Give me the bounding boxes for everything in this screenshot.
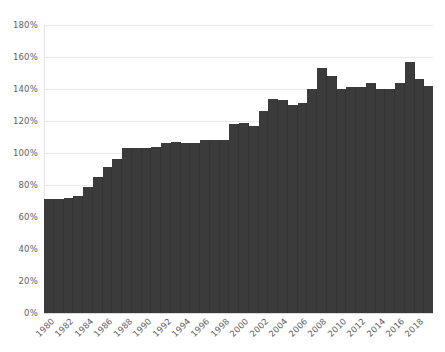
bar xyxy=(83,187,93,313)
bar xyxy=(356,87,366,313)
x-tick-label: 1996 xyxy=(189,316,212,339)
y-tick-label: 140% xyxy=(0,84,38,94)
bar xyxy=(103,167,113,313)
x-tick-label: 1998 xyxy=(208,316,231,339)
x-tick-label: 2004 xyxy=(267,316,290,339)
x-tick-label: 1994 xyxy=(170,316,193,339)
bar xyxy=(142,148,152,313)
bar xyxy=(278,100,288,313)
bar xyxy=(171,142,181,313)
x-tick-label: 1990 xyxy=(131,316,154,339)
bar xyxy=(376,89,386,313)
x-tick-label: 2014 xyxy=(364,316,387,339)
bar xyxy=(307,89,317,313)
bar xyxy=(259,111,269,313)
y-tick-label: 80% xyxy=(0,180,38,190)
x-tick-label: 2002 xyxy=(247,316,270,339)
bar xyxy=(161,143,171,313)
bar xyxy=(385,89,395,313)
bar xyxy=(249,126,259,313)
y-tick-label: 120% xyxy=(0,116,38,126)
bar xyxy=(190,143,200,313)
x-tick-label: 2016 xyxy=(384,316,407,339)
bar xyxy=(268,99,278,313)
bar xyxy=(298,103,308,313)
bar xyxy=(239,123,249,313)
bar xyxy=(132,148,142,313)
bar xyxy=(181,143,191,313)
plot-area xyxy=(44,25,433,313)
x-tick-label: 1980 xyxy=(33,316,56,339)
bar xyxy=(424,86,433,313)
y-tick-label: 160% xyxy=(0,52,38,62)
bar xyxy=(346,87,356,313)
y-tick-label: 20% xyxy=(0,276,38,286)
bar xyxy=(317,68,327,313)
x-tick-label: 1992 xyxy=(150,316,173,339)
bar xyxy=(229,124,239,313)
x-tick-label: 2008 xyxy=(306,316,329,339)
y-tick-label: 60% xyxy=(0,212,38,222)
y-tick-label: 40% xyxy=(0,244,38,254)
bar xyxy=(327,76,337,313)
bar xyxy=(366,83,376,313)
bar xyxy=(210,140,220,313)
x-tick-label: 2000 xyxy=(228,316,251,339)
x-tick-label: 2012 xyxy=(345,316,368,339)
x-axis-tick-labels: 1980198219841986198819901992199419961998… xyxy=(44,314,433,352)
bar xyxy=(122,148,132,313)
bar xyxy=(151,147,161,313)
x-tick-label: 1982 xyxy=(53,316,76,339)
x-tick-label: 1984 xyxy=(72,316,95,339)
y-tick-label: 180% xyxy=(0,20,38,30)
bar xyxy=(73,196,83,313)
bar xyxy=(288,105,298,313)
bar xyxy=(200,140,210,313)
bar xyxy=(395,83,405,313)
bar xyxy=(54,199,64,313)
y-tick-label: 0% xyxy=(0,308,38,318)
x-tick-label: 2018 xyxy=(403,316,426,339)
bar xyxy=(64,198,74,313)
bar xyxy=(93,177,103,313)
x-tick-label: 2010 xyxy=(325,316,348,339)
y-tick-label: 100% xyxy=(0,148,38,158)
x-tick-label: 1988 xyxy=(111,316,134,339)
bar xyxy=(112,159,122,313)
bar xyxy=(44,199,54,313)
bar xyxy=(220,140,230,313)
bar-series xyxy=(44,25,433,313)
bar xyxy=(405,62,415,313)
bar-chart: 180% 160% 140% 120% 100% 80% 60% 40% 20%… xyxy=(0,0,445,352)
x-tick-label: 1986 xyxy=(92,316,115,339)
bar xyxy=(415,79,425,313)
x-tick-label: 2006 xyxy=(286,316,309,339)
bar xyxy=(337,89,347,313)
